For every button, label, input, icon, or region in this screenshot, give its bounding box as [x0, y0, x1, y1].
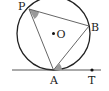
segment-PB [29, 9, 89, 26]
label-O: O [57, 28, 66, 41]
label-A: A [49, 74, 59, 87]
point-T-dot [90, 68, 93, 71]
center-O-dot [52, 32, 55, 35]
tangent-chord-diagram: P B O A T [0, 0, 109, 91]
label-P: P [18, 0, 26, 13]
label-T: T [88, 74, 96, 87]
segment-PA [29, 9, 54, 70]
label-B: B [91, 21, 99, 34]
